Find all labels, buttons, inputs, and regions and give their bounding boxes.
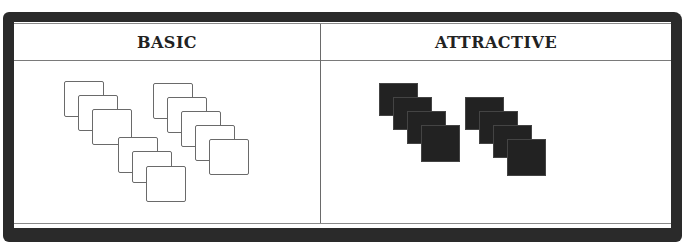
diagram-table: BASIC ATTRACTIVE: [14, 22, 671, 228]
outlined-square: [209, 139, 249, 175]
basic-header: BASIC: [14, 24, 320, 60]
bottom-rule: [14, 223, 671, 224]
filled-square: [421, 125, 460, 162]
filled-square: [507, 139, 546, 176]
attractive-header: ATTRACTIVE: [321, 24, 671, 60]
column-divider: [320, 24, 321, 224]
outlined-square: [146, 166, 186, 202]
diagram-frame: BASIC ATTRACTIVE: [3, 12, 682, 242]
header-divider: [14, 60, 671, 61]
